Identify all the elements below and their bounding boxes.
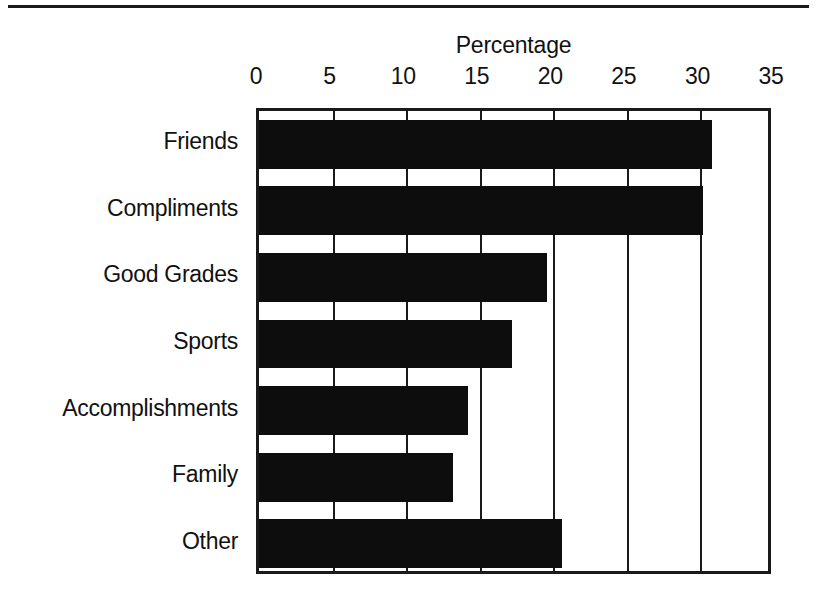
bar [259,386,468,435]
x-tick-label: 0 [250,63,263,90]
plot-area [256,108,771,574]
category-label: Accomplishments [62,394,238,421]
bar [259,186,703,235]
x-tick-label: 30 [685,63,710,90]
x-axis-tick-labels: 05101520253035 [0,63,817,93]
category-label: Friends [163,128,238,155]
x-tick-label: 35 [759,63,784,90]
x-tick-label: 10 [391,63,416,90]
x-tick-label: 15 [464,63,489,90]
bar [259,253,547,302]
category-label: Good Grades [103,261,238,288]
x-tick-label: 25 [611,63,636,90]
bar [259,453,453,502]
category-label: Other [182,527,238,554]
x-tick-label: 20 [538,63,563,90]
bar [259,320,512,369]
gridline [627,111,629,571]
bar-chart-figure: Percentage 05101520253035 FriendsComplim… [0,0,817,606]
gridline [700,111,702,571]
category-label: Compliments [107,194,238,221]
category-label: Family [172,461,238,488]
gridline [553,111,555,571]
x-tick-label: 5 [323,63,336,90]
top-divider-rule [8,5,809,8]
plot-inner [259,111,768,571]
y-axis-category-labels: FriendsComplimentsGood GradesSportsAccom… [0,108,248,574]
bar [259,120,712,169]
bar [259,519,562,568]
category-label: Sports [173,328,238,355]
chart-title: Percentage [256,32,771,59]
